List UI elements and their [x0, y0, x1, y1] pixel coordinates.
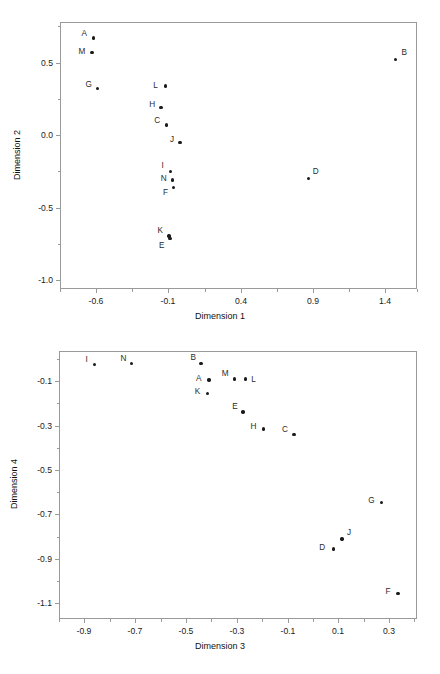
data-point	[332, 547, 335, 550]
y-axis-tick	[56, 63, 60, 64]
data-point	[262, 427, 265, 430]
x-axis-tick	[385, 289, 386, 293]
x-axis-minor-tick	[262, 619, 263, 622]
x-axis-minor-tick	[414, 619, 415, 622]
x-axis-tick-label: -0.5	[179, 627, 194, 636]
x-axis-tick-label: -0.7	[128, 627, 143, 636]
x-axis-tick	[241, 289, 242, 293]
x-axis-tick	[135, 619, 136, 623]
y-axis-minor-tick	[57, 403, 60, 404]
y-axis-tick-label: -1.1	[37, 599, 52, 608]
y-axis-minor-tick	[57, 537, 60, 538]
data-point-label: J	[347, 529, 351, 537]
y-axis-tick	[56, 280, 60, 281]
data-point-label: L	[153, 82, 158, 90]
x-axis-minor-tick	[349, 289, 350, 292]
y-axis-minor-tick	[57, 359, 60, 360]
data-point-label: K	[195, 388, 200, 396]
data-point	[178, 141, 181, 144]
data-point	[168, 237, 171, 240]
data-point	[92, 36, 95, 39]
y-axis-tick-label: -0.5	[38, 204, 53, 213]
x-axis-tick	[389, 619, 390, 623]
x-axis-tick	[313, 289, 314, 293]
y-axis-tick	[56, 208, 60, 209]
data-point	[380, 501, 383, 504]
data-point-label: K	[157, 227, 162, 235]
data-point-label: N	[120, 355, 126, 363]
x-axis-tick-label: -0.3	[230, 627, 245, 636]
x-axis-tick	[186, 619, 187, 623]
data-point	[241, 410, 244, 413]
data-point	[244, 377, 247, 380]
y-axis-tick	[56, 135, 60, 136]
data-point	[292, 433, 295, 436]
x-axis-minor-tick	[60, 289, 61, 292]
y-axis-minor-tick	[57, 492, 60, 493]
data-point-label: C	[282, 426, 288, 434]
x-axis-tick	[338, 619, 339, 623]
x-axis-minor-tick	[277, 289, 278, 292]
x-axis-tick-label: -0.6	[89, 297, 104, 306]
data-point-label: E	[232, 403, 237, 411]
x-axis-tick-label: 0.9	[307, 297, 319, 306]
data-point-label: A	[196, 375, 201, 383]
x-axis-tick-label: 0.3	[383, 627, 395, 636]
data-point-label: B	[190, 354, 195, 362]
data-point-label: N	[161, 175, 167, 183]
y-axis-tick	[55, 603, 59, 604]
x-axis-tick-label: 1.4	[379, 297, 391, 306]
data-point-label: D	[319, 544, 325, 552]
x-axis-minor-tick	[161, 619, 162, 622]
y-axis-minor-tick	[57, 448, 60, 449]
x-axis-minor-tick	[132, 289, 133, 292]
data-point	[165, 123, 168, 126]
x-axis-tick	[84, 619, 85, 623]
data-point	[207, 378, 210, 381]
x-axis-minor-tick	[313, 619, 314, 622]
scatter-plot-dimension1-dimension2: Dimension 1 Dimension 2 -0.6-0.10.40.91.…	[0, 0, 440, 336]
data-point	[396, 592, 399, 595]
data-point-label: B	[402, 49, 407, 57]
x-axis-minor-tick	[417, 289, 418, 292]
data-point-label: C	[154, 117, 160, 125]
data-point-label: G	[368, 497, 374, 505]
y-axis-title-bottom: Dimension 4	[9, 350, 19, 618]
plot-area-top	[60, 22, 417, 289]
data-point-label: I	[85, 356, 87, 364]
x-axis-tick	[288, 619, 289, 623]
plot-area-bottom	[59, 351, 417, 619]
y-axis-tick-label: -0.1	[37, 377, 52, 386]
y-axis-tick	[55, 470, 59, 471]
data-point-label: L	[251, 376, 256, 384]
data-point-label: A	[82, 30, 87, 38]
y-axis-title-top: Dimension 2	[11, 21, 21, 288]
data-point-label: M	[222, 370, 229, 378]
x-axis-minor-tick	[205, 289, 206, 292]
y-axis-minor-tick	[58, 244, 61, 245]
data-point-label: J	[170, 136, 174, 144]
x-axis-tick-label: -0.9	[77, 627, 92, 636]
data-point	[233, 377, 236, 380]
y-axis-tick	[55, 381, 59, 382]
x-axis-minor-tick	[110, 619, 111, 622]
x-axis-tick-label: 0.4	[235, 297, 247, 306]
x-axis-minor-tick	[59, 619, 60, 622]
y-axis-tick-label: -1.0	[38, 276, 53, 285]
scatter-plot-dimension3-dimension4: Dimension 3 Dimension 4 -0.9-0.7-0.5-0.3…	[0, 336, 440, 674]
data-point-label: F	[163, 189, 168, 197]
x-axis-minor-tick	[364, 619, 365, 622]
data-point-label: H	[149, 101, 155, 109]
data-point	[164, 84, 167, 87]
y-axis-tick-label: -0.7	[37, 510, 52, 519]
x-axis-tick	[96, 289, 97, 293]
x-axis-tick-label: 0.1	[332, 627, 344, 636]
y-axis-tick-label: -0.3	[37, 422, 52, 431]
y-axis-tick-label: -0.5	[37, 466, 52, 475]
data-point-label: I	[161, 162, 163, 170]
y-axis-tick-label: -0.9	[37, 555, 52, 564]
data-point-label: D	[313, 168, 319, 176]
data-point-label: H	[250, 423, 256, 431]
y-axis-tick	[55, 559, 59, 560]
x-axis-tick-label: -0.1	[161, 297, 176, 306]
